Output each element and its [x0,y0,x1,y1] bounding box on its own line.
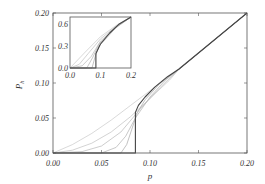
x-tick-label: 0.00 [46,159,60,168]
inset-y-tick-label: 0.0 [58,64,68,73]
svg-text:Ph: Ph [14,81,25,91]
x-tick-label: 0.10 [143,159,157,168]
y-tick-label: 0.05 [35,114,49,123]
y-tick-label: 0.10 [35,79,49,88]
inset-x-tick-label: 0.2 [126,71,136,80]
chart: 0.00 0.05 0.10 0.15 0.20 0.00 0.05 0.10 … [0,0,265,184]
y-tick-label: 0.00 [35,149,49,158]
y-axis-label: Ph [14,81,25,91]
y-axis-label-subscript: h [19,81,25,84]
inset-y-tick-label: 0.3 [58,42,68,51]
x-axis-label: p [147,171,153,181]
x-tick-label: 0.15 [192,159,206,168]
inset-y-tick-label: 0.6 [58,20,68,29]
y-tick-label: 0.15 [35,44,49,53]
inset-x-tick-label: 0.1 [96,71,106,80]
x-tick-label: 0.05 [95,159,109,168]
y-tick-label: 0.20 [35,9,49,18]
x-tick-label: 0.20 [240,159,254,168]
